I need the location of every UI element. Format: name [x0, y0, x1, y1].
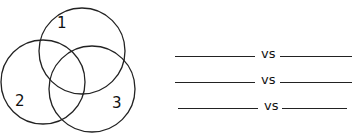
- circle-label-2: 2: [15, 92, 25, 110]
- blank-left-1[interactable]: [175, 56, 255, 57]
- blank-left-3[interactable]: [178, 108, 258, 109]
- vs-label-2: vs: [261, 72, 275, 87]
- vs-label-1: vs: [261, 46, 275, 61]
- blank-left-2[interactable]: [175, 82, 255, 83]
- blank-right-1[interactable]: [280, 56, 352, 57]
- vs-label-3: vs: [264, 98, 278, 113]
- blank-right-2[interactable]: [280, 82, 352, 83]
- blank-right-3[interactable]: [282, 108, 347, 109]
- circle-label-1: 1: [57, 14, 67, 32]
- circle-label-3: 3: [112, 94, 122, 112]
- venn-circle-2: [1, 40, 85, 124]
- venn-diagram: [0, 0, 355, 135]
